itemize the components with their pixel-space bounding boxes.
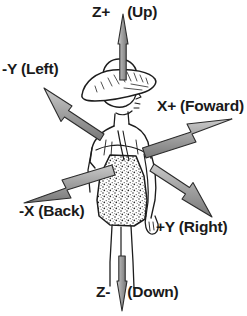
axis-label-z-minus: Z- (Down) (96, 284, 179, 300)
axis-label-y-minus: -Y (Left) (2, 61, 58, 77)
figure-skirt (97, 155, 147, 226)
axis-label-z-plus-axis: Z+ (92, 4, 110, 20)
axis-label-z-plus: Z+ (Up) (92, 4, 157, 20)
coordinate-axes-diagram: Z+ (Up) -Y (Left) X+ (Foward) -X (Back) … (0, 0, 247, 316)
axis-label-y-plus: +Y (Right) (156, 219, 227, 235)
axis-label-z-minus-direction: (Down) (127, 284, 178, 300)
axis-label-x-minus: -X (Back) (19, 203, 84, 219)
diagram-canvas (0, 0, 247, 316)
axis-label-z-minus-axis: Z- (96, 284, 110, 300)
axis-label-x-plus: X+ (Foward) (157, 98, 244, 114)
axis-label-z-plus-direction: (Up) (127, 4, 157, 20)
